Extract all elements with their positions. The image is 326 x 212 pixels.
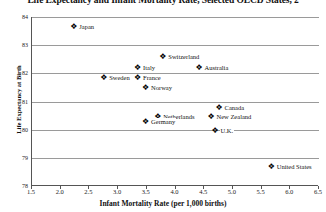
- data-point-label: Switzerland: [167, 53, 200, 61]
- gridline: [32, 45, 319, 46]
- chart-figure: Life Expectancy and Infant Mortality Rat…: [0, 0, 326, 212]
- diamond-marker-icon: ❖: [208, 114, 214, 120]
- x-axis-tick-mark: [60, 186, 61, 189]
- plot-area: ❖Japan❖Switzerland❖Italy❖Australia❖Swede…: [31, 17, 318, 186]
- y-axis-tick-label: 80: [14, 127, 28, 133]
- data-point-label: United States: [276, 163, 313, 171]
- data-point-label: U.K.: [220, 127, 235, 135]
- data-point-label: Canada: [224, 104, 246, 112]
- data-point-label: Germany: [150, 118, 176, 126]
- diamond-marker-icon: ❖: [142, 85, 148, 91]
- x-axis-tick-mark: [31, 186, 32, 189]
- data-point-label: France: [142, 74, 162, 82]
- x-axis-tick-mark: [146, 186, 147, 189]
- y-axis-tick-label: 79: [14, 155, 28, 161]
- x-axis-tick-mark: [203, 186, 204, 189]
- diamond-marker-icon: ❖: [195, 65, 201, 71]
- diamond-marker-icon: ❖: [134, 75, 140, 81]
- x-axis-tick-label: 6.0: [277, 188, 301, 195]
- diamond-marker-icon: ❖: [142, 119, 148, 125]
- x-axis-tick-label: 3.0: [105, 188, 129, 195]
- x-axis-tick-label: 2.5: [76, 188, 100, 195]
- x-axis-tick-mark: [117, 186, 118, 189]
- x-axis-tick-label: 6.5: [306, 188, 326, 195]
- chart-title: Life Expectancy and Infant Mortality Rat…: [0, 0, 326, 5]
- data-point-label: Italy: [142, 64, 156, 72]
- gridline: [32, 17, 319, 18]
- data-point-label: Australia: [203, 64, 229, 72]
- y-axis-tick-labels: 84838281807978: [12, 0, 28, 212]
- x-axis-tick-label: 4.5: [191, 188, 215, 195]
- x-axis-tick-label: 5.5: [249, 188, 273, 195]
- y-axis-tick-label: 82: [14, 70, 28, 76]
- diamond-marker-icon: ❖: [70, 24, 76, 30]
- x-axis-tick-label: 1.5: [19, 188, 43, 195]
- diamond-marker-icon: ❖: [134, 65, 140, 71]
- data-point-label: Sweden: [108, 74, 131, 82]
- data-point-label: Norway: [150, 84, 173, 92]
- gridline: [32, 73, 319, 74]
- diamond-marker-icon: ❖: [268, 164, 274, 170]
- y-axis-tick-label: 83: [14, 42, 28, 48]
- diamond-marker-icon: ❖: [216, 105, 222, 111]
- x-axis-tick-mark: [289, 186, 290, 189]
- y-axis-tick-label: 81: [14, 99, 28, 105]
- x-axis-tick-mark: [88, 186, 89, 189]
- x-axis-tick-mark: [175, 186, 176, 189]
- x-axis-title: Infant Mortality Rate (per 1,000 births): [0, 199, 326, 208]
- x-axis-tick-mark: [318, 186, 319, 189]
- gridline: [32, 102, 319, 103]
- data-point-label: New Zealand: [216, 113, 253, 121]
- x-axis-tick-mark: [232, 186, 233, 189]
- diamond-marker-icon: ❖: [100, 75, 106, 81]
- x-axis-tick-label: 4.0: [163, 188, 187, 195]
- gridline: [32, 130, 319, 131]
- diamond-marker-icon: ❖: [212, 128, 218, 134]
- x-axis-tick-label: 5.0: [220, 188, 244, 195]
- diamond-marker-icon: ❖: [159, 54, 165, 60]
- data-point-label: Japan: [78, 23, 95, 31]
- x-axis-tick-label: 3.5: [134, 188, 158, 195]
- y-axis-tick-label: 84: [14, 14, 28, 20]
- x-axis-tick-label: 2.0: [48, 188, 72, 195]
- gridline: [32, 158, 319, 159]
- x-axis-tick-mark: [261, 186, 262, 189]
